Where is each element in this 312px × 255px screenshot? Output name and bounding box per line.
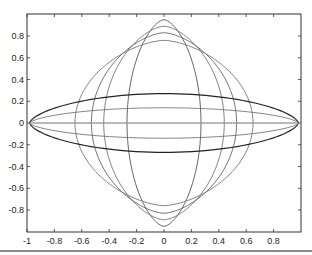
x-tick-label: 0.6 <box>240 236 253 246</box>
y-tick-label: -0.6 <box>8 183 24 193</box>
plot-curves <box>30 20 299 227</box>
y-tick-label: 0.4 <box>11 75 24 85</box>
y-tick-label: -0.2 <box>8 140 24 150</box>
x-tick-label: -0.8 <box>47 236 63 246</box>
x-tick-label: -0.6 <box>74 236 90 246</box>
x-tick-label: 0 <box>161 236 166 246</box>
x-tick-label: 0.2 <box>185 236 198 246</box>
x-tick-label: -0.2 <box>129 236 145 246</box>
y-tick-label: 0.6 <box>11 53 24 63</box>
bottom-divider <box>0 250 312 252</box>
y-tick-label: -0.4 <box>8 162 24 172</box>
x-axis: -1-0.8-0.6-0.4-0.200.20.40.60.8 <box>23 14 280 246</box>
y-tick-label: -0.8 <box>8 205 24 215</box>
x-tick-label: 0.4 <box>213 236 226 246</box>
y-tick-label: 0 <box>19 118 24 128</box>
x-tick-label: 0.8 <box>267 236 280 246</box>
y-tick-label: 0.2 <box>11 96 24 106</box>
chart: -1-0.8-0.6-0.4-0.200.20.40.60.8 0.80.60.… <box>0 0 312 255</box>
y-tick-label: 0.8 <box>11 31 24 41</box>
x-tick-label: -1 <box>23 236 31 246</box>
x-tick-label: -0.4 <box>101 236 117 246</box>
